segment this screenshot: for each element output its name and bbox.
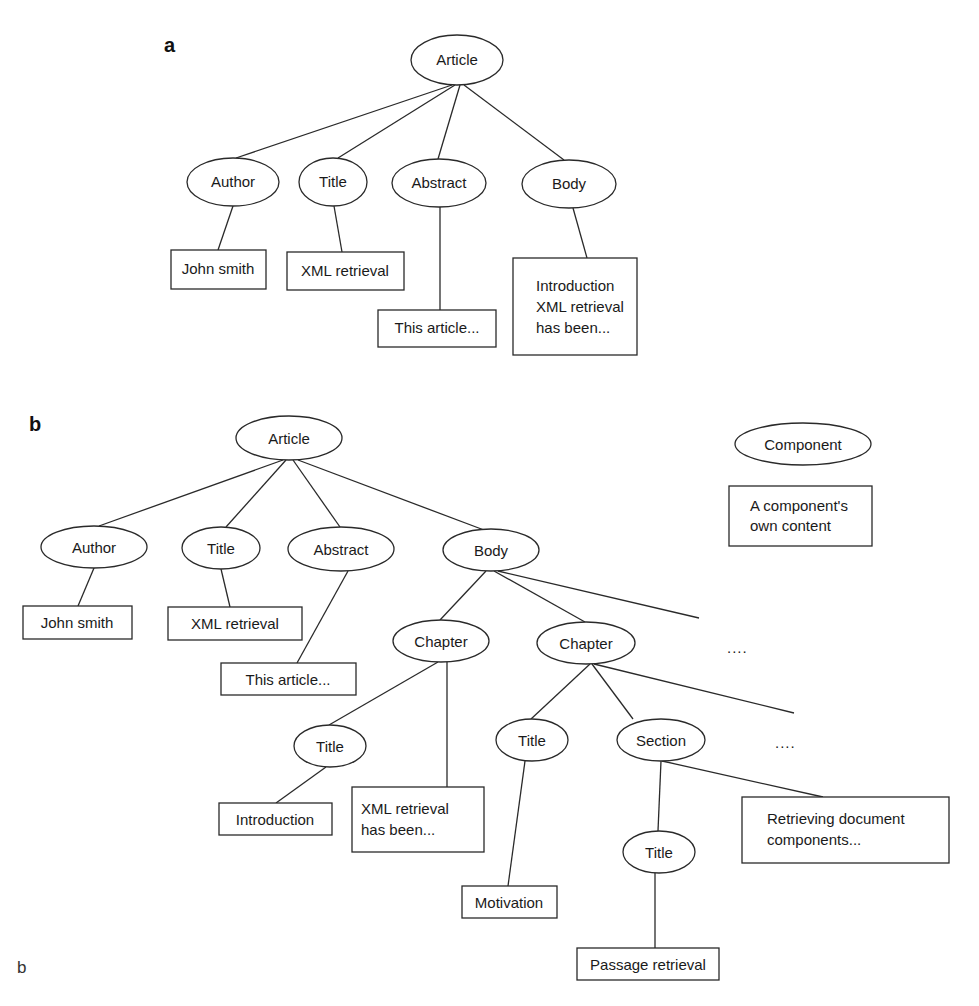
edge-chapter2-title-content bbox=[508, 761, 525, 886]
content-line: Motivation bbox=[475, 894, 543, 911]
edge-body-content bbox=[573, 208, 587, 258]
content-section-title: Passage retrieval bbox=[577, 948, 719, 980]
content-line: components... bbox=[767, 831, 861, 848]
stray-label: b bbox=[17, 958, 26, 977]
content-author: John smith bbox=[23, 606, 132, 639]
legend-content-line: own content bbox=[750, 517, 832, 534]
edge-chapter2-title bbox=[531, 664, 590, 719]
content-line: has been... bbox=[536, 319, 610, 336]
node-label: Chapter bbox=[414, 633, 467, 650]
content-line: Introduction bbox=[536, 277, 614, 294]
legend-content-line: A component's bbox=[750, 497, 848, 514]
content-line: Introduction bbox=[236, 811, 314, 828]
node-label: Title bbox=[645, 844, 673, 861]
node-chapter-2-title: Title bbox=[496, 719, 568, 761]
edge-section-title bbox=[658, 761, 661, 831]
content-chapter-2-title: Motivation bbox=[462, 886, 557, 918]
node-article: Article bbox=[411, 35, 503, 85]
edge-author-content bbox=[218, 206, 233, 250]
content-body: Introduction XML retrieval has been... bbox=[513, 258, 637, 355]
edge-article-abstract bbox=[438, 85, 460, 159]
node-label: Article bbox=[436, 51, 478, 68]
edge-section-content bbox=[662, 761, 823, 797]
legend: Component A component's own content bbox=[729, 423, 872, 546]
content-line: XML retrieval bbox=[301, 262, 389, 279]
content-chapter-1-title: Introduction bbox=[219, 803, 332, 835]
content-title: XML retrieval bbox=[168, 607, 302, 640]
node-label: Section bbox=[636, 732, 686, 749]
node-section-title: Title bbox=[623, 831, 695, 873]
edge-article-abstract bbox=[293, 460, 340, 527]
ellipsis-more-sections: .... bbox=[775, 734, 796, 751]
node-label: Author bbox=[211, 173, 255, 190]
node-abstract: Abstract bbox=[288, 527, 394, 571]
ellipsis-more-chapters: .... bbox=[727, 639, 748, 656]
node-label: Abstract bbox=[411, 174, 467, 191]
node-chapter-1-title: Title bbox=[294, 725, 366, 767]
node-title: Title bbox=[299, 158, 367, 206]
node-label: Chapter bbox=[559, 635, 612, 652]
edge-author-content bbox=[78, 568, 94, 606]
content-line: John smith bbox=[41, 614, 114, 631]
content-line: XML retrieval bbox=[536, 298, 624, 315]
edge-article-title bbox=[338, 85, 455, 158]
edge-article-author bbox=[99, 460, 283, 526]
node-label: Title bbox=[207, 540, 235, 557]
node-chapter-2: Chapter bbox=[537, 622, 635, 664]
edge-abstract-content bbox=[297, 571, 348, 663]
node-label: Title bbox=[518, 732, 546, 749]
panel-b-edges bbox=[78, 460, 823, 948]
panel-a: a Article Author Title Abstract bbox=[164, 34, 637, 355]
panel-a-label: a bbox=[164, 34, 176, 56]
content-abstract: This article... bbox=[221, 663, 356, 695]
xml-tree-figure: a Article Author Title Abstract bbox=[0, 0, 979, 1006]
node-label: Title bbox=[319, 173, 347, 190]
edge-article-body bbox=[298, 460, 484, 530]
content-line: Retrieving document bbox=[767, 810, 905, 827]
edge-title-content bbox=[221, 569, 230, 607]
edge-title-content bbox=[334, 206, 342, 252]
node-abstract: Abstract bbox=[392, 159, 486, 207]
node-body: Body bbox=[443, 529, 539, 571]
node-label: Title bbox=[316, 738, 344, 755]
edge-body-more bbox=[498, 571, 699, 618]
legend-component-label: Component bbox=[764, 436, 842, 453]
content-abstract: This article... bbox=[378, 310, 496, 347]
content-section: Retrieving document components... bbox=[742, 797, 949, 863]
content-line: has been... bbox=[361, 821, 435, 838]
content-line: XML retrieval bbox=[191, 615, 279, 632]
node-author: Author bbox=[187, 158, 279, 206]
node-title: Title bbox=[182, 527, 260, 569]
node-chapter-1: Chapter bbox=[393, 620, 489, 662]
node-label: Article bbox=[268, 430, 310, 447]
node-label: Body bbox=[552, 175, 587, 192]
content-line: Passage retrieval bbox=[590, 956, 706, 973]
panel-b: b Article bbox=[23, 413, 949, 980]
content-line: This article... bbox=[245, 671, 330, 688]
node-article: Article bbox=[236, 416, 342, 460]
node-label: Body bbox=[474, 542, 509, 559]
panel-b-label: b bbox=[29, 413, 41, 435]
node-section: Section bbox=[617, 719, 705, 761]
legend-component: Component bbox=[735, 423, 871, 465]
edge-chapter1-title-content bbox=[276, 767, 326, 803]
content-line: XML retrieval bbox=[361, 800, 449, 817]
node-body: Body bbox=[522, 160, 616, 208]
edge-chapter2-more bbox=[594, 664, 794, 713]
node-label: Abstract bbox=[313, 541, 369, 558]
content-line: This article... bbox=[394, 319, 479, 336]
content-author: John smith bbox=[171, 250, 266, 289]
edge-body-chapter1 bbox=[440, 571, 486, 620]
edge-article-body bbox=[464, 85, 564, 160]
content-chapter-1: XML retrieval has been... bbox=[352, 787, 484, 852]
node-author: Author bbox=[41, 526, 147, 568]
edge-article-author bbox=[236, 85, 452, 158]
legend-content: A component's own content bbox=[729, 486, 872, 546]
node-label: Author bbox=[72, 539, 116, 556]
edge-body-chapter2 bbox=[494, 571, 585, 622]
content-title: XML retrieval bbox=[287, 252, 404, 290]
content-line: John smith bbox=[182, 260, 255, 277]
